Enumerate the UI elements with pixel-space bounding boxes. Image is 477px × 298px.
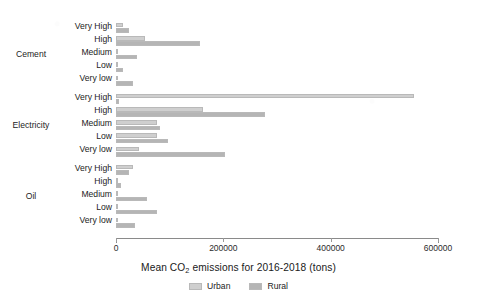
x-tick-label-3: 600000	[424, 243, 452, 253]
bar-urban-cement-very-high	[116, 23, 123, 28]
bar-row	[116, 146, 438, 159]
x-axis-title-suffix: emissions for 2016-2018 (tons)	[190, 262, 336, 273]
bar-rural-electricity-medium	[116, 126, 160, 131]
category-label-high: High	[52, 34, 112, 44]
bar-urban-electricity-medium	[116, 120, 157, 125]
category-label-wrap: Low	[50, 131, 112, 144]
bar-urban-electricity-very-high	[116, 94, 414, 99]
bar-urban-cement-very-low	[116, 76, 118, 81]
bar-row	[116, 22, 438, 35]
category-label-wrap: High	[50, 105, 112, 118]
bar-urban-oil-very-high	[116, 165, 133, 170]
bar-rural-cement-medium	[116, 55, 137, 60]
category-label-wrap: Very low	[50, 73, 112, 86]
bar-row	[116, 62, 438, 75]
legend-label-urban: Urban	[207, 281, 230, 291]
bar-rural-oil-very-high	[116, 170, 129, 175]
bar-rural-cement-low	[116, 68, 123, 73]
bar-rural-oil-medium	[116, 197, 147, 202]
bar-row	[116, 106, 438, 119]
category-label-wrap: High	[50, 34, 112, 47]
group-label-electricity: Electricity	[8, 120, 54, 130]
legend-swatch-rural-icon	[249, 283, 262, 290]
legend-item-urban: Urban	[189, 281, 230, 291]
x-tick-label-1: 200000	[209, 243, 237, 253]
bar-row	[116, 119, 438, 132]
legend-label-rural: Rural	[267, 281, 288, 291]
bar-rural-oil-very-low	[116, 223, 135, 228]
bar-row	[116, 177, 438, 190]
bar-row	[116, 133, 438, 146]
x-tick-1	[223, 238, 224, 242]
bar-row	[116, 217, 438, 230]
x-axis-title: Mean CO2 emissions for 2016-2018 (tons)	[0, 262, 477, 275]
category-label-very-high: Very High	[52, 163, 112, 173]
category-label-wrap: Very low	[50, 215, 112, 228]
category-label-very-low: Very low	[52, 215, 112, 225]
bar-row	[116, 93, 438, 106]
bar-rural-electricity-low	[116, 139, 168, 144]
bar-urban-cement-low	[116, 62, 118, 67]
chart-legend: Urban Rural	[0, 281, 477, 291]
x-tick-3	[438, 238, 439, 242]
bar-urban-oil-high	[116, 178, 118, 183]
category-label-low: Low	[52, 131, 112, 141]
bar-rural-electricity-very-low	[116, 152, 225, 157]
category-label-wrap: Low	[50, 202, 112, 215]
bar-row	[116, 48, 438, 61]
category-label-wrap: Medium	[50, 189, 112, 202]
bar-row	[116, 204, 438, 217]
category-label-very-high: Very High	[52, 92, 112, 102]
bar-urban-oil-medium	[116, 191, 118, 196]
x-tick-label-0: 0	[114, 243, 119, 253]
group-label-cement: Cement	[8, 49, 54, 59]
bar-urban-cement-high	[116, 36, 145, 41]
category-label-wrap: Very High	[50, 21, 112, 34]
bar-rural-cement-very-high	[116, 28, 129, 33]
bar-rural-cement-high	[116, 41, 200, 46]
category-label-wrap: Very High	[50, 163, 112, 176]
category-label-very-high: Very High	[52, 21, 112, 31]
bar-rural-cement-very-low	[116, 81, 133, 86]
bar-row	[116, 164, 438, 177]
category-label-low: Low	[52, 202, 112, 212]
category-label-wrap: High	[50, 176, 112, 189]
category-label-medium: Medium	[52, 189, 112, 199]
category-label-medium: Medium	[52, 118, 112, 128]
bar-row	[116, 35, 438, 48]
bar-urban-electricity-very-low	[116, 147, 139, 152]
co2-emissions-bar-chart: 0200000400000600000 Very HighHighMediumL…	[0, 0, 477, 298]
bar-rural-oil-low	[116, 210, 157, 215]
bar-urban-cement-medium	[116, 49, 118, 54]
category-label-low: Low	[52, 60, 112, 70]
bar-urban-electricity-high	[116, 107, 203, 112]
bar-urban-electricity-low	[116, 133, 157, 138]
bar-rural-oil-high	[116, 183, 121, 188]
category-label-high: High	[52, 105, 112, 115]
bar-row	[116, 75, 438, 88]
category-label-wrap: Very High	[50, 92, 112, 105]
category-label-wrap: Very low	[50, 144, 112, 157]
legend-item-rural: Rural	[249, 281, 288, 291]
legend-swatch-urban-icon	[189, 283, 202, 290]
bar-urban-oil-low	[116, 204, 118, 209]
x-tick-2	[331, 238, 332, 242]
x-tick-0	[116, 238, 117, 242]
x-axis-title-prefix: Mean CO	[141, 262, 185, 273]
category-label-wrap: Low	[50, 60, 112, 73]
bar-rural-electricity-very-high	[116, 99, 119, 104]
x-tick-label-2: 400000	[316, 243, 344, 253]
bar-urban-oil-very-low	[116, 218, 118, 223]
category-label-high: High	[52, 176, 112, 186]
category-label-medium: Medium	[52, 47, 112, 57]
category-label-wrap: Medium	[50, 118, 112, 131]
group-label-oil: Oil	[8, 191, 54, 201]
category-label-wrap: Medium	[50, 47, 112, 60]
x-axis-line	[116, 238, 439, 239]
bar-rural-electricity-high	[116, 112, 265, 117]
category-label-very-low: Very low	[52, 73, 112, 83]
category-label-very-low: Very low	[52, 144, 112, 154]
bar-row	[116, 190, 438, 203]
